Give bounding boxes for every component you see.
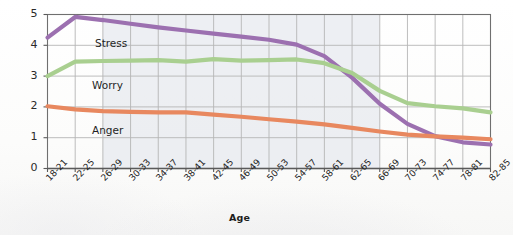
series-label-worry: Worry xyxy=(92,79,123,91)
y-tick-label: 1 xyxy=(16,130,38,143)
y-tick-label: 5 xyxy=(16,7,38,20)
y-tick-label: 0 xyxy=(16,161,38,174)
y-tick-label: 2 xyxy=(16,99,38,112)
chart-figure: 012345 18-2122-2526-2930-3334-3738-4142-… xyxy=(0,0,513,235)
line-chart-canvas xyxy=(0,0,513,235)
x-axis-title: Age xyxy=(229,212,250,223)
y-tick-label: 4 xyxy=(16,38,38,51)
series-label-anger: Anger xyxy=(92,124,123,136)
series-label-stress: Stress xyxy=(95,37,127,49)
y-tick-label: 3 xyxy=(16,69,38,82)
